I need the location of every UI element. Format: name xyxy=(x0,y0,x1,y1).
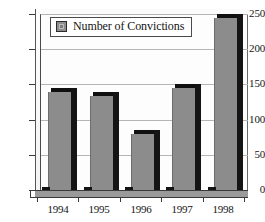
legend-label: Number of Convictions xyxy=(73,20,184,33)
bar-side-face xyxy=(237,14,243,190)
bar xyxy=(48,92,71,190)
y-axis-line xyxy=(30,190,31,197)
bar xyxy=(90,96,113,190)
x-axis-tick xyxy=(120,197,121,202)
y-axis-tick xyxy=(29,14,35,15)
legend-swatch-icon xyxy=(56,21,67,32)
y-axis-tick xyxy=(29,84,35,85)
x-axis-tick xyxy=(78,197,79,202)
x-axis-tick xyxy=(37,197,38,202)
bar xyxy=(172,88,195,190)
y-axis-tick xyxy=(29,120,35,121)
bar xyxy=(214,18,237,190)
x-axis-line xyxy=(30,197,248,198)
x-axis-tick-label: 1995 xyxy=(77,203,121,215)
x-axis-tick xyxy=(161,197,162,202)
bar xyxy=(131,134,154,190)
bar-chart: 050100150200250 19941995199619971998 Num… xyxy=(0,0,265,222)
bar-side-face xyxy=(113,92,119,190)
x-axis-tick-label: 1994 xyxy=(36,203,80,215)
chart-legend: Number of Convictions xyxy=(50,17,192,37)
x-axis-tick-label: 1998 xyxy=(201,203,245,215)
bar-side-face xyxy=(195,84,201,190)
bar-side-face xyxy=(71,88,77,190)
bar-side-face xyxy=(154,130,160,190)
x-axis-tick xyxy=(203,197,204,202)
x-axis-tick xyxy=(244,197,245,202)
y-axis-tick xyxy=(29,49,35,50)
x-axis-tick-label: 1996 xyxy=(119,203,163,215)
x-axis-tick-label: 1997 xyxy=(160,203,204,215)
y-axis-tick xyxy=(29,155,35,156)
